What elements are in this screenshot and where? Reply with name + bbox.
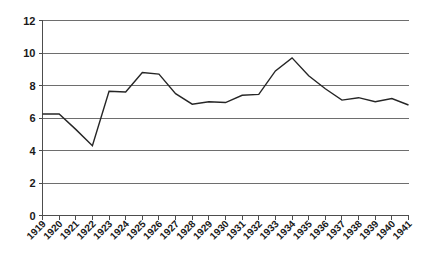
- x-axis-group: 1919192019211922192319241925192619271928…: [24, 216, 414, 242]
- y-axis-tick-label: 6: [29, 112, 35, 124]
- data-series-line: [43, 58, 409, 146]
- x-tick-labels: 1919192019211922192319241925192619271928…: [24, 218, 414, 242]
- x-axis-tick-label: 1941: [390, 218, 414, 242]
- y-tick-labels: 121086420: [23, 15, 36, 222]
- y-axis-tick-label: 8: [29, 80, 35, 92]
- y-axis-tick-label: 10: [23, 47, 35, 59]
- chart-canvas: 121086420 191919201921192219231924192519…: [0, 0, 421, 259]
- y-tick-marks: [39, 21, 43, 216]
- y-axis-tick-label: 12: [23, 15, 35, 27]
- line-chart: 121086420 191919201921192219231924192519…: [0, 0, 421, 259]
- x-tick-marks: [43, 216, 409, 220]
- series-group: [43, 58, 409, 146]
- y-axis-group: 121086420: [23, 15, 42, 222]
- y-axis-tick-label: 2: [29, 177, 35, 189]
- gridlines-group: [43, 21, 409, 216]
- y-axis-tick-label: 0: [29, 210, 35, 222]
- y-axis-tick-label: 4: [29, 145, 36, 157]
